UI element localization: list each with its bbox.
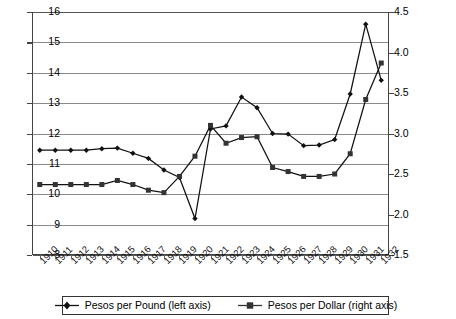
data-point-square [363,97,368,102]
data-point-square [255,134,260,139]
data-point-diamond [316,142,321,147]
data-point-square [161,190,166,195]
y-axis-left-tick-mark [27,42,32,43]
y-axis-left-tick-label: 12 [32,128,60,138]
y-axis-right-tick-mark [389,174,394,175]
data-point-square [130,182,135,187]
diamond-marker-icon [54,300,80,311]
series-polyline [40,24,381,218]
data-point-square [146,188,151,193]
data-point-square [332,172,337,177]
data-point-diamond [68,148,73,153]
y-axis-right-tick-label: 4.0 [394,47,424,57]
y-axis-left-tick-mark [27,255,32,256]
data-point-square [379,61,384,66]
y-axis-left-tick-mark [27,164,32,165]
square-marker-icon [237,300,263,311]
chart-container: Pesos per Pound (left axis) Pesos per Do… [0,0,456,319]
y-axis-right-tick-mark [389,12,394,13]
y-axis-right-tick-label: 3.0 [394,128,424,138]
y-axis-right-tick-label: 4.5 [394,6,424,16]
data-point-square [348,151,353,156]
series-pesos-per-pound [37,21,384,221]
y-axis-left-tick-label: 16 [32,6,60,16]
y-axis-right-tick-label: 2.0 [394,209,424,219]
y-axis-left-tick-label: 11 [32,158,60,168]
data-point-square [37,182,42,187]
y-axis-right-tick-label: 3.5 [394,87,424,97]
data-point-square [99,182,104,187]
data-point-diamond [223,123,228,128]
y-axis-left-tick-mark [27,103,32,104]
legend-entry-pesos-per-dollar: Pesos per Dollar (right axis) [237,300,398,311]
series-pesos-per-dollar [37,61,383,196]
y-axis-right-tick-mark [389,93,394,94]
data-point-square [208,123,213,128]
legend-entry-pesos-per-pound: Pesos per Pound (left axis) [54,300,211,311]
data-point-square [177,174,182,179]
y-axis-right-tick-mark [389,53,394,54]
data-point-square [270,165,275,170]
y-axis-right-tick-mark [389,134,394,135]
y-axis-left-tick-label: 13 [32,97,60,107]
legend-label-pesos-per-pound: Pesos per Pound (left axis) [85,300,211,311]
data-point-diamond [332,137,337,142]
data-point-diamond [363,21,368,26]
data-point-square [239,135,244,140]
data-point-diamond [37,148,42,153]
y-axis-right-tick-mark [389,215,394,216]
data-point-square [286,169,291,174]
y-axis-left-tick-mark [27,12,32,13]
data-point-diamond [99,146,104,151]
data-point-diamond [270,131,275,136]
chart-legend: Pesos per Pound (left axis) Pesos per Do… [62,296,389,315]
y-axis-left-tick-mark [27,225,32,226]
y-axis-right-tick-label: 2.5 [394,168,424,178]
data-point-square [68,182,73,187]
y-axis-left-tick-mark [27,73,32,74]
data-point-diamond [84,148,89,153]
data-point-square [115,178,120,183]
series-layer [32,12,389,255]
data-point-diamond [379,78,384,83]
data-point-diamond [347,91,352,96]
data-point-square [84,182,89,187]
data-point-square [317,174,322,179]
data-point-square [224,141,229,146]
legend-label-pesos-per-dollar: Pesos per Dollar (right axis) [268,300,398,311]
data-point-diamond [192,216,197,221]
y-axis-left-tick-mark [27,194,32,195]
y-axis-left-tick-label: 14 [32,67,60,77]
y-axis-left-tick-label: 15 [32,36,60,46]
data-point-diamond [130,151,135,156]
y-axis-left-tick-label: 10 [32,188,60,198]
data-point-diamond [115,145,120,150]
y-axis-left-tick-label: 9 [32,219,60,229]
data-point-diamond [53,148,58,153]
data-point-square [301,174,306,179]
data-point-square [192,154,197,159]
y-axis-left-tick-mark [27,134,32,135]
